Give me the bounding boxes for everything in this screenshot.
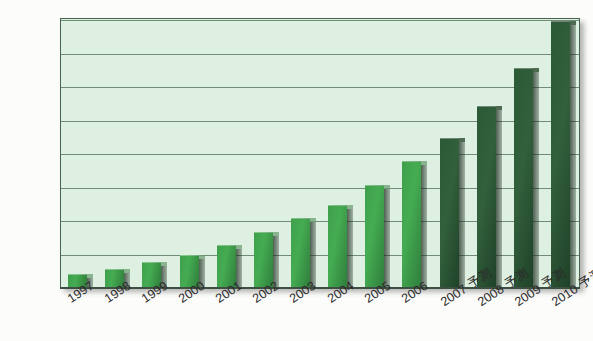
bar-chart: 020,00040,00060,00080,000100,000120,0001… [0,0,593,341]
bar-face [514,68,533,287]
bar-face [440,138,459,287]
bar-shadow-side [496,110,502,287]
plot-inner [61,19,579,287]
bar-shadow-side [459,142,465,287]
bar-top-face [496,106,502,110]
bar-face [291,218,310,287]
bar [514,68,539,287]
bar-face [551,21,570,287]
bar-shadow-side [384,189,390,287]
bar-face [402,161,421,287]
gridline [61,87,579,88]
bar-shadow-side [310,222,316,287]
bar-top-face [533,68,539,72]
bar-top-face [347,205,353,209]
bar-top-face [310,218,316,222]
bar-shadow-side [347,209,353,287]
bar-top-face [161,262,167,266]
bar-top-face [459,138,465,142]
bar-top-face [124,269,130,273]
bar-top-face [384,185,390,189]
bar [254,232,279,287]
bar-face [254,232,273,287]
bar [291,218,316,287]
bar [551,21,576,287]
bar [328,205,353,287]
bar-top-face [199,255,205,259]
bar-shadow-side [570,25,576,287]
bar-top-face [421,161,427,165]
x-axis: 1997199819992000200120022003200420052006… [0,288,593,341]
bar [402,161,427,287]
bar [477,106,502,287]
bar-shadow-side [421,165,427,287]
bar-top-face [236,245,242,249]
bar-top-face [87,274,93,278]
bar-face [328,205,347,287]
bar-shadow-side [533,72,539,287]
plot-area [60,18,580,288]
bar-face [365,185,384,287]
bar [440,138,465,287]
bar-top-face [570,21,576,25]
bar-top-face [273,232,279,236]
gridline [61,54,579,55]
gridline [61,20,579,21]
bar [365,185,390,287]
bar-face [477,106,496,287]
